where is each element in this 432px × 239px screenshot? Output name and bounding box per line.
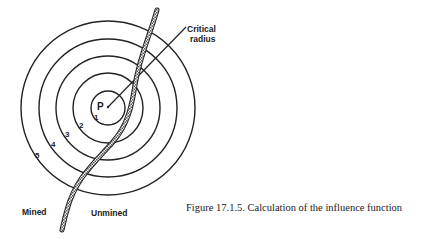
ring-label-5: 5 bbox=[35, 151, 40, 160]
ring-label-4: 4 bbox=[51, 140, 56, 149]
region-label-unmined: Unmined bbox=[91, 208, 127, 218]
critical-radius-label-line2: radius bbox=[190, 34, 216, 44]
region-label-mined: Mined bbox=[22, 207, 47, 217]
critical-radius-label-line1: Critical bbox=[187, 24, 216, 34]
ring-label-1: 1 bbox=[94, 113, 99, 122]
point-label: P bbox=[97, 101, 104, 112]
ring-label-3: 3 bbox=[65, 130, 70, 139]
ring-label-2: 2 bbox=[79, 121, 84, 130]
figure-caption: Figure 17.1.5. Calculation of the influe… bbox=[186, 202, 402, 213]
mining-boundary bbox=[62, 10, 157, 230]
